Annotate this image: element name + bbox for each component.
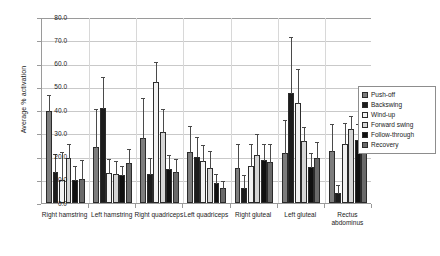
y-tick-mark	[37, 65, 41, 66]
error-bar-cap	[161, 109, 165, 110]
legend-item-label: Wind-up	[371, 112, 395, 119]
x-tick-mark	[324, 204, 325, 208]
y-tick-mark	[37, 158, 41, 159]
x-tick-label: Rectus abdominus	[318, 211, 377, 227]
error-bar	[345, 123, 346, 145]
legend-item-wind-up[interactable]: Wind-up	[362, 110, 433, 120]
error-bar	[129, 149, 130, 164]
legend-item-label: Backswing	[371, 102, 402, 109]
bar-wind-up-6	[342, 144, 348, 203]
bar-wind-up-3	[200, 161, 206, 203]
error-bar	[169, 155, 170, 170]
error-bar	[143, 98, 144, 139]
error-bar	[216, 174, 217, 184]
error-bar	[156, 62, 157, 83]
error-bar	[311, 153, 312, 168]
error-bar	[176, 159, 177, 173]
error-bar-cap	[214, 174, 218, 175]
bar-wind-up-1	[106, 173, 112, 203]
error-bar-cap	[343, 123, 347, 124]
y-tick-mark	[37, 204, 41, 205]
x-tick-mark	[230, 204, 231, 208]
legend-item-label: Recovery	[371, 142, 398, 149]
gridline	[42, 158, 371, 159]
bar-follow-through-1	[119, 175, 125, 203]
bar-backswing-3	[194, 157, 200, 204]
bar-wind-up-2	[153, 82, 159, 203]
legend-swatch-icon	[362, 122, 368, 128]
bar-recovery-6	[361, 150, 367, 203]
error-bar-cap	[349, 116, 353, 117]
error-bar-cap	[268, 144, 272, 145]
bar-recovery-1	[126, 163, 132, 203]
legend-swatch-icon	[362, 102, 368, 108]
error-bar	[69, 144, 70, 159]
error-bar-cap	[330, 124, 334, 125]
bar-backswing-2	[147, 174, 153, 203]
group-separator	[183, 18, 184, 203]
bar-forward-swing-2	[160, 132, 166, 203]
y-tick-mark	[37, 181, 41, 182]
group-separator	[89, 18, 90, 203]
error-bar-cap	[114, 161, 118, 162]
bar-push-off-3	[187, 152, 193, 203]
error-bar-cap	[289, 37, 293, 38]
y-axis-title: Average % activation	[20, 35, 27, 165]
error-bar-cap	[255, 134, 259, 135]
error-bar	[203, 145, 204, 162]
error-bar	[75, 166, 76, 181]
x-tick-mark	[135, 204, 136, 208]
chart-legend: Push-offBackswingWind-upForward swingFol…	[358, 86, 436, 154]
error-bar-cap	[148, 158, 152, 159]
bar-chart: Average % activation 80.070.060.050.040.…	[0, 0, 440, 256]
error-bar	[82, 160, 83, 180]
bar-push-off-1	[93, 147, 99, 203]
bar-push-off-6	[329, 151, 335, 203]
error-bar-cap	[208, 151, 212, 152]
error-bar	[163, 109, 164, 133]
bar-backswing-6	[335, 193, 341, 203]
error-bar-cap	[296, 69, 300, 70]
error-bar-cap	[201, 145, 205, 146]
error-bar-cap	[141, 98, 145, 99]
bar-recovery-3	[220, 188, 226, 203]
error-bar	[257, 134, 258, 156]
error-bar	[251, 144, 252, 167]
error-bar-cap	[94, 109, 98, 110]
legend-item-label: Forward swing	[371, 122, 413, 129]
bar-backswing-1	[100, 108, 106, 203]
bar-forward-swing-3	[207, 168, 213, 203]
legend-swatch-icon	[362, 142, 368, 148]
legend-item-push-off[interactable]: Push-off	[362, 90, 433, 100]
bar-forward-swing-6	[348, 129, 354, 203]
group-separator	[231, 18, 232, 203]
y-tick-mark	[37, 41, 41, 42]
bar-forward-swing-4	[254, 155, 260, 203]
error-bar-cap	[262, 144, 266, 145]
gridline	[42, 111, 371, 112]
legend-swatch-icon	[362, 132, 368, 138]
bar-recovery-4	[267, 162, 273, 203]
bar-follow-through-2	[166, 169, 172, 203]
error-bar-cap	[120, 166, 124, 167]
gridline	[42, 88, 371, 89]
bar-recovery-2	[173, 172, 179, 203]
legend-item-follow-through[interactable]: Follow-through	[362, 130, 433, 140]
error-bar-cap	[127, 149, 131, 150]
error-bar	[351, 116, 352, 130]
y-tick-mark	[37, 111, 41, 112]
legend-item-forward-swing[interactable]: Forward swing	[362, 120, 433, 130]
gridline	[42, 134, 371, 135]
x-tick-mark	[277, 204, 278, 208]
error-bar-cap	[283, 120, 287, 121]
error-bar	[270, 144, 271, 164]
gridline	[42, 41, 371, 42]
group-separator	[136, 18, 137, 203]
error-bar	[190, 126, 191, 153]
legend-item-label: Push-off	[371, 92, 395, 99]
legend-item-recovery[interactable]: Recovery	[362, 140, 433, 150]
legend-item-backswing[interactable]: Backswing	[362, 100, 433, 110]
bar-recovery-0	[79, 179, 85, 203]
y-tick-mark	[37, 18, 41, 19]
error-bar-cap	[47, 95, 51, 96]
